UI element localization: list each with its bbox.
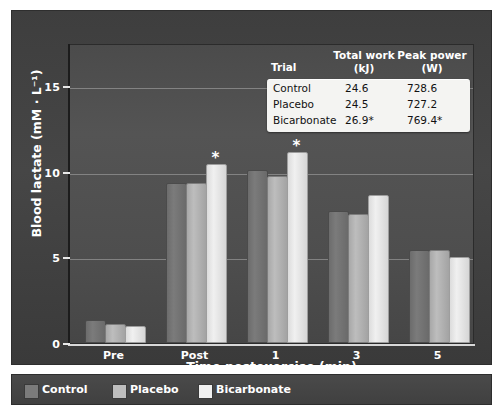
x-tick-label-pre: Pre [103, 349, 124, 362]
table-cell-trial: Placebo [273, 98, 314, 110]
x-tick-label-post: Post [181, 349, 208, 362]
inset-header-trial: Trial [271, 61, 331, 73]
bar-control-post [166, 183, 187, 343]
inset-table-header: Trial Total work (kJ) Peak power (W) [267, 46, 470, 79]
legend-label-bicarbonate: Bicarbonate [216, 383, 291, 397]
y-tick-mark-10 [63, 172, 70, 174]
bar-placebo-5 [429, 250, 450, 343]
x-tick-label-3: 3 [353, 349, 361, 362]
bar-bicarbonate-5 [449, 257, 470, 343]
table-cell-peak-power: 727.2 [407, 98, 461, 110]
x-tick-label-5: 5 [434, 349, 442, 362]
legend-label-placebo: Placebo [130, 383, 179, 397]
y-axis-line [68, 44, 70, 346]
legend-label-control: Control [42, 383, 87, 397]
table-cell-total-work: 26.9* [345, 114, 389, 126]
y-tick-mark-15 [63, 86, 70, 88]
bar-control-pre [85, 320, 106, 343]
bar-placebo-3 [348, 214, 369, 343]
significance-marker: * [212, 151, 220, 166]
table-cell-trial: Control [273, 82, 311, 94]
legend: Control Placebo Bicarbonate [11, 374, 492, 405]
inset-header-total-work: Total work [333, 49, 395, 61]
table-cell-total-work: 24.6 [345, 82, 389, 94]
bar-bicarbonate-pre [125, 326, 146, 343]
table-cell-peak-power: 769.4* [407, 114, 461, 126]
bar-bicarbonate-3 [368, 195, 389, 343]
table-row: Bicarbonate 26.9* 769.4* [267, 114, 470, 130]
y-axis-title: Blood lactate (mM · L⁻¹) [29, 34, 44, 274]
inset-header-total-work-unit: (kJ) [333, 62, 395, 74]
legend-swatch-control [24, 384, 39, 399]
inset-summary-table: Trial Total work (kJ) Peak power (W) Con… [267, 46, 470, 141]
inset-header-peak-power-unit: (W) [397, 62, 467, 74]
y-tick-label-0: 0 [30, 338, 60, 351]
significance-marker: * [293, 139, 301, 154]
figure-container: ** Blood lactate (mM · L⁻¹) Time postexe… [0, 0, 503, 417]
bar-placebo-post [186, 183, 207, 343]
table-cell-peak-power: 728.6 [407, 82, 461, 94]
bar-placebo-pre [105, 324, 126, 343]
table-row: Control 24.6 728.6 [267, 82, 470, 98]
x-tick-label-1: 1 [272, 349, 280, 362]
table-cell-trial: Bicarbonate [273, 114, 336, 126]
table-cell-total-work: 24.5 [345, 98, 389, 110]
y-tick-mark-0 [63, 343, 70, 345]
bar-placebo-1 [267, 176, 288, 343]
inset-header-peak-power: Peak power [397, 49, 467, 61]
bar-control-1 [247, 170, 268, 343]
table-row: Placebo 24.5 727.2 [267, 98, 470, 114]
bar-control-5 [409, 250, 430, 343]
y-tick-mark-5 [63, 257, 70, 259]
y-tick-label-5: 5 [30, 252, 60, 265]
x-axis-line [68, 344, 475, 346]
legend-swatch-bicarbonate [198, 384, 213, 399]
legend-swatch-placebo [112, 384, 127, 399]
bar-control-3 [328, 211, 349, 343]
y-tick-label-15: 15 [30, 80, 60, 93]
gridline-y-10 [70, 174, 473, 175]
chart-outer-panel: ** Blood lactate (mM · L⁻¹) Time postexe… [11, 10, 492, 365]
bar-bicarbonate-post [206, 164, 227, 343]
bar-bicarbonate-1 [287, 152, 308, 343]
y-tick-label-10: 10 [30, 166, 60, 179]
inset-table-body: Control 24.6 728.6 Placebo 24.5 727.2 Bi… [267, 79, 470, 132]
